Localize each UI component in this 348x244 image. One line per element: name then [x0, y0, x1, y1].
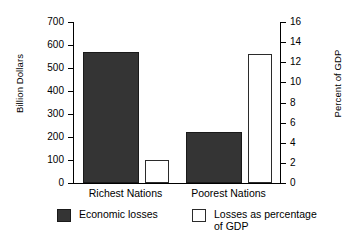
y-axis-right-tick-mark — [280, 183, 286, 184]
legend-label-1: Losses as percentage of GDP — [214, 208, 317, 232]
y-axis-right-tick-mark — [280, 22, 286, 23]
bar-losses-percentage-gdp — [145, 160, 169, 183]
y-axis-right-tick-label: 4 — [290, 138, 312, 148]
y-axis-right-tick-mark — [280, 42, 286, 43]
legend-swatch-dark — [57, 209, 71, 222]
y-axis-left-tick-label: 700 — [18, 17, 64, 27]
bar-chart: Billion Dollars Percent of GDP 010020030… — [0, 0, 348, 244]
y-axis-left-tick-label: 100 — [18, 155, 64, 165]
bar-losses-percentage-gdp — [248, 54, 272, 183]
y-axis-left-tick-label: 400 — [18, 86, 64, 96]
bar-economic-losses — [83, 52, 139, 183]
legend-item-economic-losses: Economic losses — [57, 208, 158, 222]
y-axis-right-tick-mark — [280, 143, 286, 144]
y-axis-right-tick-mark — [280, 163, 286, 164]
y-axis-left-tick-mark — [68, 160, 74, 161]
x-axis-category-label: Richest Nations — [66, 187, 186, 199]
y-axis-right-tick-label: 6 — [290, 118, 312, 128]
y-axis-right-tick-mark — [280, 123, 286, 124]
legend-swatch-light — [192, 209, 206, 222]
y-axis-left-tick-mark — [68, 183, 74, 184]
y-axis-right-tick-label: 2 — [290, 158, 312, 168]
y-axis-right-tick-label: 14 — [290, 37, 312, 47]
y-axis-left-tick-mark — [68, 45, 74, 46]
y-axis-right-tick-mark — [280, 82, 286, 83]
y-axis-right-tick-label: 16 — [290, 17, 312, 27]
x-axis-line — [73, 183, 281, 184]
y-axis-right-tick-label: 12 — [290, 57, 312, 67]
y-axis-left-tick-label: 300 — [18, 109, 64, 119]
bar-economic-losses — [186, 132, 242, 183]
y-axis-right-title: Percent of GDP — [332, 36, 343, 132]
y-axis-left-tick-mark — [68, 22, 74, 23]
y-axis-right-tick-label: 0 — [290, 178, 312, 188]
y-axis-left-tick-mark — [68, 114, 74, 115]
legend-item-losses-percentage-gdp: Losses as percentage of GDP — [192, 208, 317, 232]
y-axis-left-tick-mark — [68, 68, 74, 69]
legend-label-0: Economic losses — [79, 208, 158, 220]
y-axis-left-tick-mark — [68, 91, 74, 92]
x-axis-category-label: Poorest Nations — [169, 187, 289, 199]
chart-legend: Economic losses Losses as percentage of … — [0, 206, 348, 240]
y-axis-left-tick-label: 0 — [18, 178, 64, 188]
y-axis-left-tick-mark — [68, 137, 74, 138]
y-axis-right-tick-label: 8 — [290, 98, 312, 108]
y-axis-left-tick-label: 200 — [18, 132, 64, 142]
y-axis-right-tick-mark — [280, 62, 286, 63]
y-axis-left-tick-label: 600 — [18, 40, 64, 50]
y-axis-right-tick-mark — [280, 103, 286, 104]
y-axis-left-tick-label: 500 — [18, 63, 64, 73]
y-axis-right-tick-label: 10 — [290, 77, 312, 87]
